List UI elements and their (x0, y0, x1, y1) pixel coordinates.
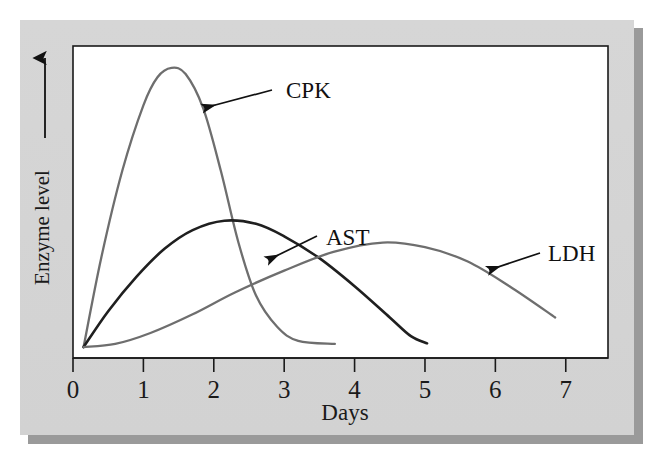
x-axis-tick-label: 5 (410, 377, 440, 402)
series-label-cpk: CPK (286, 78, 331, 104)
x-axis-tick-label: 4 (340, 377, 370, 402)
x-axis-tick-label: 1 (128, 377, 158, 402)
y-axis-title: Enzyme level (30, 153, 55, 303)
x-axis-tick-label: 7 (551, 377, 581, 402)
series-label-ast: AST (326, 225, 369, 251)
x-axis-tick-label: 6 (480, 377, 510, 402)
plot-frame (73, 46, 608, 358)
x-axis-tick-label: 0 (58, 377, 88, 402)
x-axis-title: Days (300, 400, 390, 426)
x-axis (73, 358, 608, 372)
series-label-ldh: LDH (548, 241, 595, 267)
figure-root: 01234567 Days Enzyme level CPKASTLDH (0, 0, 669, 470)
x-axis-ticks (73, 358, 566, 372)
x-axis-tick-label: 3 (269, 377, 299, 402)
x-axis-tick-label: 2 (199, 377, 229, 402)
